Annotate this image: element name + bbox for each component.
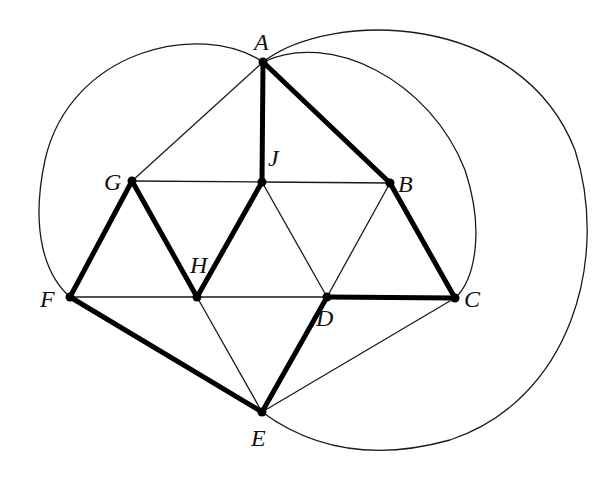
edge-c-e bbox=[262, 298, 455, 412]
vertex-label-g: G bbox=[104, 169, 121, 195]
graph-canvas: ABCDEFGHJ bbox=[0, 0, 613, 478]
vertex-b bbox=[386, 179, 395, 188]
edge-j-b bbox=[262, 182, 390, 183]
vertex-label-j: J bbox=[268, 145, 280, 171]
vertex-h bbox=[193, 293, 202, 302]
edge-b-d bbox=[327, 183, 390, 297]
vertex-label-e: E bbox=[250, 425, 266, 451]
edge-j-d bbox=[262, 182, 327, 297]
edge-g-h bbox=[132, 181, 197, 297]
vertex-a bbox=[259, 58, 268, 67]
edge-a-g bbox=[132, 62, 263, 181]
vertex-label-b: B bbox=[398, 171, 413, 197]
bold-cycle-edges bbox=[70, 62, 455, 412]
edge-d-c bbox=[327, 297, 455, 298]
vertex-e bbox=[258, 408, 267, 417]
vertex-j bbox=[258, 178, 267, 187]
vertex-label-h: H bbox=[189, 252, 209, 278]
vertex-d bbox=[323, 293, 332, 302]
edge-j-h bbox=[197, 182, 262, 297]
edge-a-j bbox=[262, 62, 263, 182]
curved-edge-a-f bbox=[39, 44, 263, 297]
vertex-g bbox=[128, 177, 137, 186]
vertex-label-a: A bbox=[252, 29, 269, 55]
vertex-label-c: C bbox=[464, 286, 481, 312]
vertex-label-f: F bbox=[39, 286, 55, 312]
edge-a-b bbox=[263, 62, 390, 183]
graph-diagram: ABCDEFGHJ bbox=[0, 0, 613, 478]
curved-edges bbox=[39, 30, 587, 450]
edge-g-j bbox=[132, 181, 262, 182]
vertex-c bbox=[451, 294, 460, 303]
edge-f-e bbox=[70, 297, 262, 412]
vertex-labels: ABCDEFGHJ bbox=[39, 29, 481, 451]
edge-g-f bbox=[70, 181, 132, 297]
vertex-label-d: D bbox=[315, 305, 333, 331]
edge-b-c bbox=[390, 183, 455, 298]
vertex-f bbox=[66, 293, 75, 302]
